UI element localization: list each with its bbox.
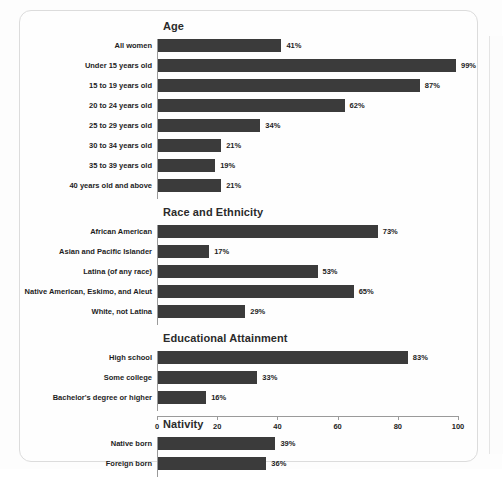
- bar-row: 20 to 24 years old62%: [0, 99, 502, 112]
- x-axis-line: [157, 416, 458, 417]
- bar: [158, 305, 245, 318]
- bar-category-label: Bachelor's degree or higher: [53, 391, 152, 404]
- bar-row: Native born39%: [0, 437, 502, 450]
- bar: [158, 179, 221, 192]
- bar-value-label: 17%: [214, 245, 229, 258]
- section-title-2: Race and Ethnicity: [163, 206, 263, 218]
- x-tick: [398, 416, 399, 420]
- bar-row: High school83%: [0, 351, 502, 364]
- bar-category-label: Asian and Pacific Islander: [59, 245, 152, 258]
- bar-category-label: 25 to 29 years old: [89, 119, 152, 132]
- x-tick: [338, 416, 339, 420]
- x-tick: [458, 416, 459, 420]
- bar: [158, 437, 275, 450]
- bar-row: African American73%: [0, 225, 502, 238]
- bar-category-label: African American: [90, 225, 152, 238]
- bar-value-label: 41%: [286, 39, 301, 52]
- bar: [158, 265, 318, 278]
- bar-row: 15 to 19 years old87%: [0, 79, 502, 92]
- x-tick-label: 40: [273, 422, 281, 431]
- bar-category-label: High school: [109, 351, 152, 364]
- x-tick-label: 20: [213, 422, 221, 431]
- bar-row: Latina (of any race)53%: [0, 265, 502, 278]
- x-tick-label: 80: [394, 422, 402, 431]
- section-title-4: Nativity: [163, 418, 204, 430]
- bar-value-label: 16%: [211, 391, 226, 404]
- x-tick: [217, 416, 218, 420]
- bar-category-label: Under 15 years old: [85, 59, 152, 72]
- bar-value-label: 39%: [280, 437, 295, 450]
- bar-row: 35 to 39 years old19%: [0, 159, 502, 172]
- bar: [158, 99, 345, 112]
- bar-row: 30 to 34 years old21%: [0, 139, 502, 152]
- bar: [158, 391, 206, 404]
- x-tick-label: 60: [333, 422, 341, 431]
- bar: [158, 79, 420, 92]
- bar-category-label: Some college: [104, 371, 152, 384]
- bar: [158, 371, 257, 384]
- bar-value-label: 34%: [265, 119, 280, 132]
- section-title-1: Age: [163, 20, 184, 32]
- bar-value-label: 87%: [425, 79, 440, 92]
- bar-row: Some college33%: [0, 371, 502, 384]
- bar-category-label: 15 to 19 years old: [89, 79, 152, 92]
- bar-value-label: 73%: [383, 225, 398, 238]
- x-tick: [277, 416, 278, 420]
- bar-category-label: 30 to 34 years old: [89, 139, 152, 152]
- bar-value-label: 62%: [350, 99, 365, 112]
- bar-category-label: 40 years old and above: [69, 179, 152, 192]
- bar-row: Under 15 years old99%: [0, 59, 502, 72]
- bar-category-label: Native American, Eskimo, and Aleut: [25, 285, 152, 298]
- bar-category-label: Latina (of any race): [83, 265, 152, 278]
- bar: [158, 225, 378, 238]
- bar: [158, 159, 215, 172]
- section-title-3: Educational Attainment: [163, 332, 288, 344]
- x-tick-label: 100: [452, 422, 465, 431]
- bar-category-label: 20 to 24 years old: [89, 99, 152, 112]
- bar: [158, 245, 209, 258]
- bar-row: Asian and Pacific Islander17%: [0, 245, 502, 258]
- x-tick-label: 0: [155, 422, 159, 431]
- bar-category-label: Native born: [111, 437, 152, 450]
- bar-value-label: 19%: [220, 159, 235, 172]
- bar-row: All women41%: [0, 39, 502, 52]
- bar-value-label: 29%: [250, 305, 265, 318]
- x-tick: [157, 416, 158, 420]
- bar: [158, 39, 281, 52]
- bar: [158, 119, 260, 132]
- bar-value-label: 36%: [271, 457, 286, 470]
- bar-category-label: White, not Latina: [92, 305, 152, 318]
- bar: [158, 59, 456, 72]
- bar-row: Native American, Eskimo, and Aleut65%: [0, 285, 502, 298]
- bar-value-label: 21%: [226, 179, 241, 192]
- bar-value-label: 65%: [359, 285, 374, 298]
- bar-category-label: All women: [114, 39, 152, 52]
- bar: [158, 285, 354, 298]
- bar-row: 40 years old and above21%: [0, 179, 502, 192]
- bar-value-label: 53%: [323, 265, 338, 278]
- bar-value-label: 33%: [262, 371, 277, 384]
- bar: [158, 139, 221, 152]
- bar-row: 25 to 29 years old34%: [0, 119, 502, 132]
- bar: [158, 351, 408, 364]
- bar-category-label: Foreign born: [106, 457, 152, 470]
- bar-value-label: 83%: [413, 351, 428, 364]
- bar-value-label: 99%: [461, 59, 476, 72]
- bar-category-label: 35 to 39 years old: [89, 159, 152, 172]
- bar-row: Foreign born36%: [0, 457, 502, 470]
- bar: [158, 457, 266, 470]
- bar-value-label: 21%: [226, 139, 241, 152]
- bar-row: White, not Latina29%: [0, 305, 502, 318]
- bar-row: Bachelor's degree or higher16%: [0, 391, 502, 404]
